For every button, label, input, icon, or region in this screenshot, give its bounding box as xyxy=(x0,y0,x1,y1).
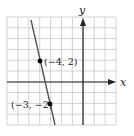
x-axis-label: x xyxy=(120,76,127,89)
coordinate-graph: (−4, 2) (−3, −2) x y xyxy=(0,0,134,136)
point-a-label: (−4, 2) xyxy=(44,56,78,67)
point-b-label: (−3, −2) xyxy=(11,99,52,110)
y-axis-arrow-icon xyxy=(80,18,86,26)
point-a-marker xyxy=(38,59,43,64)
x-axis-arrow-icon xyxy=(108,79,116,85)
y-axis-label: y xyxy=(78,4,86,17)
